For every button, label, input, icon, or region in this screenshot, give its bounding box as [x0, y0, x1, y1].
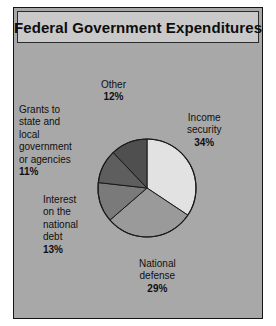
pie-label-interest: Interest on the national debt 13%: [43, 194, 78, 256]
pie-slices: [98, 139, 196, 237]
pie-label-income-security: Income security 34%: [187, 112, 221, 149]
pie-label-other-percent: 12%: [101, 91, 126, 103]
page-title: Federal Government Expenditures: [14, 19, 262, 36]
pie-label-defense-percent: 29%: [139, 283, 176, 295]
pie-label-interest-line-0: Interest: [43, 194, 78, 206]
chart-title-bar: Federal Government Expenditures: [17, 11, 259, 43]
pie-label-grants-line-4: or agencies: [19, 154, 72, 166]
pie-label-grants-line-2: local: [19, 129, 72, 141]
pie-label-interest-line-2: national: [43, 219, 78, 231]
plot-area: Other 12% Grants to state and local gove…: [17, 46, 259, 315]
pie-label-grants: Grants to state and local government or …: [19, 104, 72, 178]
pie-label-interest-percent: 13%: [43, 244, 78, 256]
pie-label-grants-line-3: government: [19, 141, 72, 153]
pie-label-income-percent: 34%: [187, 137, 221, 149]
pie-label-interest-line-3: debt: [43, 231, 78, 243]
pie-chart: [17, 46, 259, 315]
figure-panel: Federal Government Expenditures Other 12…: [13, 7, 263, 319]
pie-label-grants-percent: 11%: [19, 166, 72, 178]
pie-chart-svg: [17, 46, 259, 315]
pie-label-other-line-0: Other: [101, 79, 126, 91]
pie-label-income-line-0: Income: [187, 112, 221, 124]
pie-label-grants-line-1: state and: [19, 116, 72, 128]
pie-label-income-line-1: security: [187, 124, 221, 136]
pie-label-interest-line-1: on the: [43, 206, 78, 218]
pie-label-other: Other 12%: [101, 79, 126, 104]
pie-label-defense-line-1: defense: [139, 270, 176, 282]
pie-label-national-defense: National defense 29%: [139, 258, 176, 295]
pie-label-grants-line-0: Grants to: [19, 104, 72, 116]
pie-label-defense-line-0: National: [139, 258, 176, 270]
